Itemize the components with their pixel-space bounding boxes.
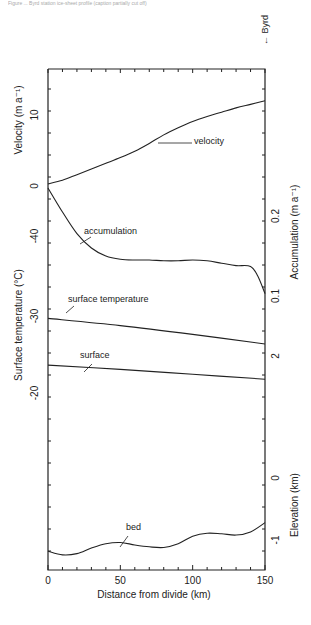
data-curves	[48, 101, 265, 555]
temperature-tick-label: -40	[29, 228, 40, 243]
surface-label: surface	[80, 350, 110, 360]
plot-frame	[48, 69, 265, 570]
temperature-tick-label: -20	[29, 385, 40, 400]
byrd-annotation: ← Byrd	[260, 15, 270, 45]
velocity-tick-label: 0	[29, 183, 40, 189]
velocity-axis-title: Velocity (m a⁻¹)	[13, 85, 24, 154]
bed-curve	[48, 523, 265, 555]
x-tick-label: 0	[45, 575, 51, 586]
surface-temperature-label: surface temperature	[68, 294, 149, 304]
surface-curve	[48, 365, 265, 379]
accumulation-tick-label: 0.1	[270, 289, 281, 303]
accumulation-axis-title: Accumulation (m a⁻¹)	[289, 185, 300, 280]
elevation-tick-label: 0	[270, 475, 281, 481]
bed-label: bed	[126, 522, 141, 532]
x-axis-title: Distance from divide (km)	[97, 589, 210, 600]
x-tick-label: 100	[184, 575, 201, 586]
temperature-axis-title: Surface temperature (°C)	[13, 269, 24, 381]
x-tick-label: 150	[257, 575, 274, 586]
accumulation-tick-label: 0.2	[270, 209, 281, 223]
elevation-axis-title: Elevation (km)	[289, 473, 300, 537]
x-tick-label: 50	[115, 575, 127, 586]
temperature-tick-label: -30	[29, 308, 40, 323]
frame-line	[48, 69, 265, 570]
ice-profile-chart: 050100150100-40-30-200.20.120-1 Velocity…	[0, 0, 311, 625]
accumulation-curve	[48, 188, 265, 294]
accumulation-label: accumulation	[84, 226, 137, 236]
velocity-tick-label: 10	[29, 109, 40, 121]
velocity-curve	[48, 101, 265, 184]
elevation-tick-label: 2	[270, 353, 281, 359]
velocity-label: velocity	[194, 136, 225, 146]
elevation-tick-label: -1	[270, 535, 281, 544]
axis-ticks: 050100150100-40-30-200.20.120-1	[29, 69, 281, 586]
surface-temperature-curve	[48, 318, 265, 344]
